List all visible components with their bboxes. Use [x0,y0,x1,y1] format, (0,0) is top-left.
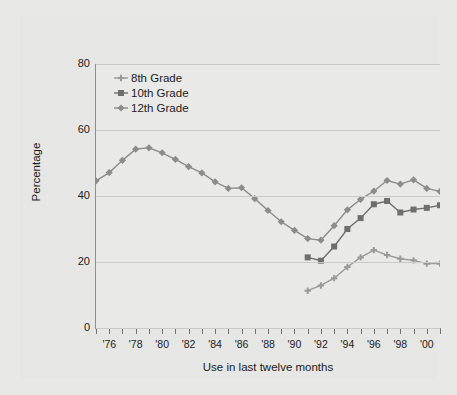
x-tick [189,329,190,334]
data-point [159,149,166,156]
data-point [358,215,364,221]
y-tick-label: 60 [64,123,90,135]
x-tick-label: '98 [393,338,407,350]
x-tick-label: '88 [261,338,275,350]
series-12th-grade [96,144,440,244]
x-tick [242,329,243,334]
x-tick-label: '96 [367,338,381,350]
plot-area: 8th Grade 10th Grade 12th Grade [96,64,440,328]
legend-item-10th-grade[interactable]: 10th Grade [114,85,189,100]
x-tick [202,329,203,334]
data-point [410,176,417,183]
x-tick [109,329,110,334]
series-line [308,250,440,291]
data-point [331,243,337,249]
data-point [172,156,179,163]
data-point [291,227,298,234]
x-axis-title: Use in last twelve months [96,361,440,373]
x-tick [255,329,256,334]
x-tick [361,329,362,334]
x-tick [149,329,150,334]
data-point [371,247,377,253]
chart-legend: 8th Grade 10th Grade 12th Grade [114,70,189,115]
legend-item-12th-grade[interactable]: 12th Grade [114,100,189,115]
x-tick [281,329,282,334]
legend-marker-square-icon [114,86,128,100]
x-tick-label: '00 [420,338,434,350]
data-point [397,256,403,262]
data-point [304,288,310,294]
x-tick-label: '76 [102,338,116,350]
gridline [96,130,440,131]
gridline [96,196,440,197]
data-point [225,185,232,192]
x-tick [334,329,335,334]
data-point [344,226,350,232]
chart-card: Percentage 020406080 8th Grade 10th Grad… [20,16,437,379]
data-point [437,202,440,208]
x-tick [294,329,295,334]
x-tick [414,329,415,334]
data-point [423,185,430,192]
x-tick [268,329,269,334]
data-point [436,188,440,195]
x-tick-label: '78 [129,338,143,350]
data-point [411,207,417,213]
x-tick-label: '84 [208,338,222,350]
x-tick [228,329,229,334]
gridline [96,262,440,263]
data-point [384,252,390,258]
data-point [305,254,311,260]
data-point [371,201,377,207]
x-tick [427,329,428,334]
x-tick [136,329,137,334]
legend-item-8th-grade[interactable]: 8th Grade [114,70,189,85]
x-tick-label: '94 [341,338,355,350]
data-point [318,282,324,288]
gridline [96,64,440,65]
x-axis-tick-labels: '76'78'80'82'84'86'88'90'92'94'96'98'00 [20,338,457,354]
legend-label-10th-grade: 10th Grade [131,87,189,99]
y-tick-label: 80 [64,57,90,69]
x-tick [215,329,216,334]
data-point [384,198,390,204]
x-tick-label: '86 [235,338,249,350]
x-tick [321,329,322,334]
data-point [424,205,430,211]
series-8th-grade [304,247,440,294]
legend-marker-diamond-icon [114,101,128,115]
data-point [185,163,192,170]
y-axis-title: Percentage [30,112,42,232]
data-point [304,235,311,242]
chart-page: Percentage 020406080 8th Grade 10th Grad… [0,0,457,395]
x-tick [347,329,348,334]
data-point [397,181,404,188]
x-tick-label: '80 [155,338,169,350]
data-point [397,210,403,216]
x-tick-label: '82 [182,338,196,350]
legend-label-12th-grade: 12th Grade [131,102,189,114]
series-line [96,148,440,240]
x-tick [96,329,97,334]
y-tick-label: 0 [64,321,90,333]
x-tick-label: '90 [288,338,302,350]
x-tick [440,329,441,334]
x-tick [162,329,163,334]
data-point [145,144,152,151]
y-tick-label: 20 [64,255,90,267]
x-tick [387,329,388,334]
x-tick [122,329,123,334]
x-tick-label: '92 [314,338,328,350]
x-tick [175,329,176,334]
series-10th-grade [305,198,440,264]
x-tick [308,329,309,334]
legend-label-8th-grade: 8th Grade [131,72,182,84]
x-tick [374,329,375,334]
y-tick-label: 40 [64,189,90,201]
legend-marker-cross-icon [114,71,128,85]
x-tick [400,329,401,334]
